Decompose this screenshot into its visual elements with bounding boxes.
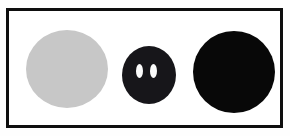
aperture-right-icon	[150, 64, 157, 78]
shape-gray-disc	[26, 30, 108, 108]
figure-canvas	[0, 0, 290, 136]
shape-black-disc	[193, 31, 275, 113]
shape-dark-disc-with-holes	[122, 46, 176, 104]
aperture-left-icon	[136, 64, 143, 78]
shape-field	[9, 11, 280, 125]
framed-panel	[6, 8, 283, 128]
